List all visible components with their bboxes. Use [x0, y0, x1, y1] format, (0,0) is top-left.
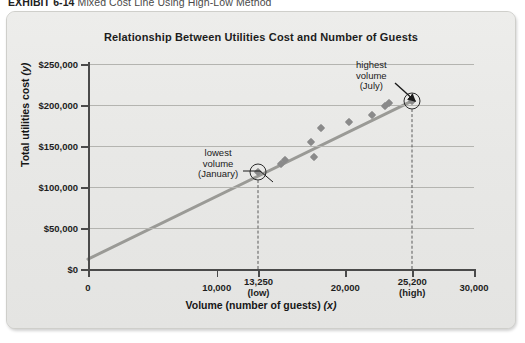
chart-title: Relationship Between Utilities Cost and … [7, 31, 515, 43]
x-tick-label: 20,000 [331, 282, 360, 293]
x-tick-label-low: 13,250(low) [244, 276, 273, 298]
exhibit-figure: EXHIBIT 6-14 Mixed Cost Line Using High-… [0, 0, 525, 343]
x-special-sub: (high) [398, 287, 427, 298]
x-axis-line [82, 269, 476, 271]
x-tick [345, 269, 347, 277]
exhibit-caption: EXHIBIT 6-14 Mixed Cost Line Using High-… [8, 0, 272, 10]
y-tick-label: $50,000 [44, 223, 78, 234]
exhibit-title: Mixed Cost Line Using High-Low Method [78, 0, 272, 8]
x-tick-label: 30,000 [459, 282, 488, 293]
x-tick-label: 0 [85, 282, 90, 293]
y-tick-label: $100,000 [38, 182, 78, 193]
x-special-sub: (low) [244, 287, 273, 298]
y-tick-label: $200,000 [38, 100, 78, 111]
y-axis-title: Total utilities cost (y) [19, 63, 31, 167]
x-tick-label: 10,000 [202, 282, 231, 293]
x-special-value: 13,250 [244, 276, 273, 287]
y-tick-label: $250,000 [38, 59, 78, 70]
x-tick [217, 269, 219, 277]
x-axis-title: Volume (number of guests) (x) [7, 299, 515, 311]
exhibit-number: EXHIBIT 6-14 [8, 0, 75, 8]
x-tick-label-high: 25,200(high) [398, 276, 427, 298]
x-special-value: 25,200 [398, 276, 427, 287]
plot-area: $0$50,000$100,000$150,000$200,000$250,00… [88, 64, 474, 269]
y-tick-label: $150,000 [38, 141, 78, 152]
chart-panel: Relationship Between Utilities Cost and … [6, 11, 516, 329]
y-tick-label: $0 [67, 264, 78, 275]
x-tick [88, 269, 90, 277]
x-tick [474, 269, 476, 277]
annotation-leader-lines [88, 64, 474, 269]
